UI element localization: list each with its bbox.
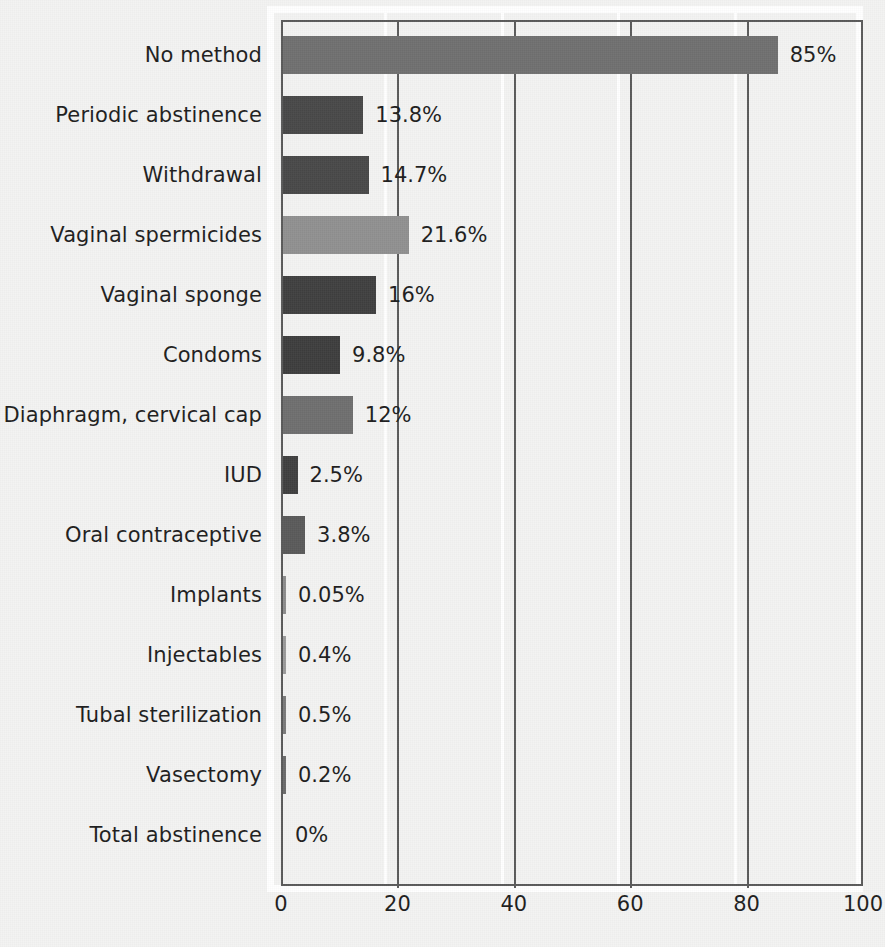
bar-container: 0% bbox=[283, 805, 883, 865]
bar bbox=[283, 396, 353, 434]
bar-row: Tubal sterilization0.5% bbox=[0, 685, 885, 745]
bar bbox=[283, 576, 286, 614]
category-label: Vaginal spermicides bbox=[0, 205, 262, 265]
x-tick-label: 100 bbox=[843, 892, 883, 916]
bar-row: Diaphragm, cervical cap12% bbox=[0, 385, 885, 445]
bar-row: Vasectomy0.2% bbox=[0, 745, 885, 805]
x-tick-label: 0 bbox=[274, 892, 287, 916]
x-tick-label: 60 bbox=[617, 892, 644, 916]
x-tick-label: 80 bbox=[733, 892, 760, 916]
bar-value-label: 14.7% bbox=[381, 145, 448, 205]
category-label: No method bbox=[0, 25, 262, 85]
bar-row: Oral contraceptive3.8% bbox=[0, 505, 885, 565]
bar-container: 0.05% bbox=[283, 565, 883, 625]
bar-value-label: 0% bbox=[295, 805, 328, 865]
category-label: Periodic abstinence bbox=[0, 85, 262, 145]
bar-row: Implants0.05% bbox=[0, 565, 885, 625]
bar-value-label: 85% bbox=[790, 25, 837, 85]
bar-container: 2.5% bbox=[283, 445, 883, 505]
x-tick-label: 40 bbox=[500, 892, 527, 916]
bar-value-label: 16% bbox=[388, 265, 435, 325]
bar bbox=[283, 516, 305, 554]
bar-row: Condoms9.8% bbox=[0, 325, 885, 385]
bar bbox=[283, 96, 363, 134]
bar-container: 3.8% bbox=[283, 505, 883, 565]
category-label: Oral contraceptive bbox=[0, 505, 262, 565]
bar-row: Vaginal spermicides21.6% bbox=[0, 205, 885, 265]
bar-container: 21.6% bbox=[283, 205, 883, 265]
bar-value-label: 2.5% bbox=[310, 445, 363, 505]
category-label: Condoms bbox=[0, 325, 262, 385]
x-axis-tick-labels: 020406080100 bbox=[0, 892, 885, 932]
bar bbox=[283, 456, 298, 494]
bar-container: 16% bbox=[283, 265, 883, 325]
bar-value-label: 21.6% bbox=[421, 205, 488, 265]
category-label: Vasectomy bbox=[0, 745, 262, 805]
bar-container: 0.4% bbox=[283, 625, 883, 685]
category-label: Withdrawal bbox=[0, 145, 262, 205]
bar-container: 85% bbox=[283, 25, 883, 85]
bar-container: 13.8% bbox=[283, 85, 883, 145]
category-label: Diaphragm, cervical cap bbox=[0, 385, 262, 445]
bar-row: Withdrawal14.7% bbox=[0, 145, 885, 205]
bar-row: Vaginal sponge16% bbox=[0, 265, 885, 325]
bar-container: 0.2% bbox=[283, 745, 883, 805]
bar-row: Injectables0.4% bbox=[0, 625, 885, 685]
horizontal-bar-chart: No method85%Periodic abstinence13.8%With… bbox=[0, 0, 885, 947]
category-label: Tubal sterilization bbox=[0, 685, 262, 745]
category-label: Vaginal sponge bbox=[0, 265, 262, 325]
bar-value-label: 0.5% bbox=[298, 685, 351, 745]
bar-value-label: 0.05% bbox=[298, 565, 365, 625]
bar bbox=[283, 696, 286, 734]
bar-row: No method85% bbox=[0, 25, 885, 85]
category-label: IUD bbox=[0, 445, 262, 505]
bar-value-label: 13.8% bbox=[375, 85, 442, 145]
bar bbox=[283, 636, 286, 674]
bar-container: 12% bbox=[283, 385, 883, 445]
bar bbox=[283, 756, 286, 794]
bar-container: 9.8% bbox=[283, 325, 883, 385]
bar-value-label: 9.8% bbox=[352, 325, 405, 385]
bar-value-label: 0.2% bbox=[298, 745, 351, 805]
bar-value-label: 12% bbox=[365, 385, 412, 445]
bar bbox=[283, 336, 340, 374]
bar-value-label: 3.8% bbox=[317, 505, 370, 565]
bar bbox=[283, 36, 778, 74]
bar bbox=[283, 216, 409, 254]
category-label: Total abstinence bbox=[0, 805, 262, 865]
bar-container: 0.5% bbox=[283, 685, 883, 745]
bar-container: 14.7% bbox=[283, 145, 883, 205]
category-label: Implants bbox=[0, 565, 262, 625]
x-tick-label: 20 bbox=[384, 892, 411, 916]
bar-row: Total abstinence0% bbox=[0, 805, 885, 865]
category-label: Injectables bbox=[0, 625, 262, 685]
bar bbox=[283, 276, 376, 314]
bar bbox=[283, 156, 369, 194]
bar-row: IUD2.5% bbox=[0, 445, 885, 505]
bar-value-label: 0.4% bbox=[298, 625, 351, 685]
bar-row: Periodic abstinence13.8% bbox=[0, 85, 885, 145]
